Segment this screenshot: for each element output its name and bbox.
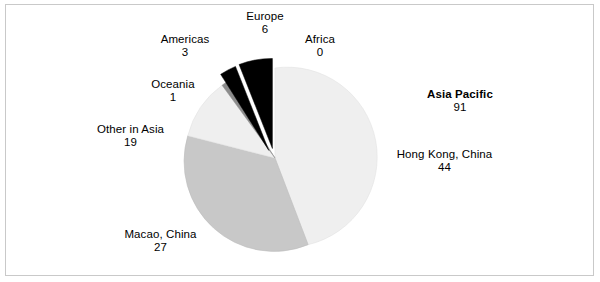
slice-label-other-in-asia-name: Other in Asia <box>68 123 193 136</box>
slice-label-macao: Macao, China 27 <box>98 228 223 254</box>
slice-label-hong-kong-name: Hong Kong, China <box>372 148 517 161</box>
slice-label-europe: Europe 6 <box>215 10 315 36</box>
slice-label-europe-name: Europe <box>215 10 315 23</box>
slice-label-hong-kong-value: 44 <box>372 161 517 174</box>
slice-label-macao-value: 27 <box>98 241 223 254</box>
slice-label-hong-kong: Hong Kong, China 44 <box>372 148 517 174</box>
slice-label-africa-name: Africa <box>275 33 365 46</box>
slice-label-macao-name: Macao, China <box>98 228 223 241</box>
slice-label-oceania-name: Oceania <box>123 78 223 91</box>
slice-label-other-in-asia: Other in Asia 19 <box>68 123 193 149</box>
slice-label-oceania-value: 1 <box>123 91 223 104</box>
slice-label-africa-value: 0 <box>275 46 365 59</box>
group-label-asia-pacific-value: 91 <box>395 101 525 114</box>
slice-label-oceania: Oceania 1 <box>123 78 223 104</box>
slice-label-americas: Americas 3 <box>135 33 235 59</box>
slice-label-africa: Africa 0 <box>275 33 365 59</box>
slice-label-americas-value: 3 <box>135 46 235 59</box>
pie-chart-screenshot: Americas 3 Europe 6 Africa 0 Oceania 1 O… <box>0 0 600 282</box>
group-label-asia-pacific-name: Asia Pacific <box>395 88 525 101</box>
group-label-asia-pacific: Asia Pacific 91 <box>395 88 525 114</box>
slice-label-other-in-asia-value: 19 <box>68 136 193 149</box>
